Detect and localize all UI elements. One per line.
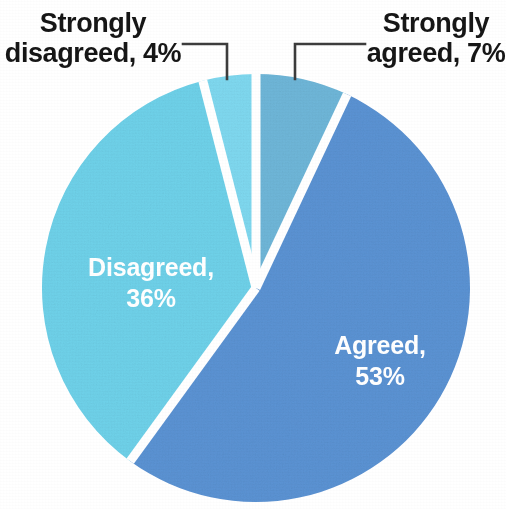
pie-chart-figure: Strongly disagreed, 4% Strongly agreed, …	[0, 0, 506, 509]
slice-label-disagreed: Disagreed, 36%	[56, 252, 246, 313]
slice-label-disagreed-line2: 36%	[56, 283, 246, 314]
callout-strongly-disagreed-line1: Strongly	[0, 8, 186, 38]
slice-label-agreed-line1: Agreed,	[300, 330, 460, 361]
callout-label-strongly-agreed: Strongly agreed, 7%	[366, 8, 506, 68]
slice-label-agreed-line2: 53%	[300, 361, 460, 392]
callout-strongly-agreed-line2: agreed, 7%	[366, 38, 506, 68]
callout-strongly-agreed-line1: Strongly	[366, 8, 506, 38]
callout-strongly-disagreed-line2: disagreed, 4%	[0, 38, 186, 68]
slice-label-disagreed-line1: Disagreed,	[56, 252, 246, 283]
callout-label-strongly-disagreed: Strongly disagreed, 4%	[0, 8, 186, 68]
slice-label-agreed: Agreed, 53%	[300, 330, 460, 391]
